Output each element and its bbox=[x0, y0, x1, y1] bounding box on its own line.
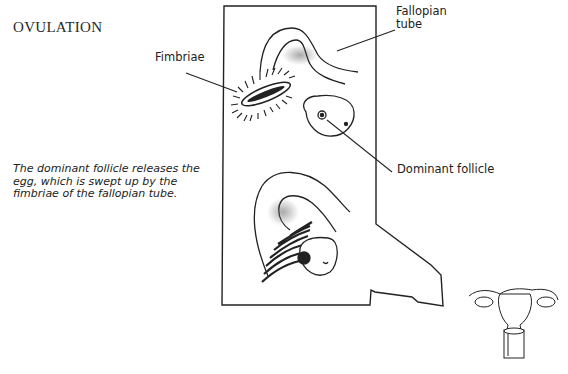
fallopian-tube-top bbox=[260, 28, 358, 84]
ovary-with-follicle bbox=[304, 96, 354, 137]
fimbriae-top bbox=[231, 68, 295, 121]
leader-line-fimbriae bbox=[186, 73, 237, 92]
leader-line-dominant-follicle bbox=[327, 120, 392, 172]
uterus-icon bbox=[469, 289, 558, 358]
ovulation-illustration bbox=[0, 0, 568, 374]
released-egg bbox=[298, 238, 337, 276]
leader-line-fallopian-tube bbox=[337, 30, 395, 51]
